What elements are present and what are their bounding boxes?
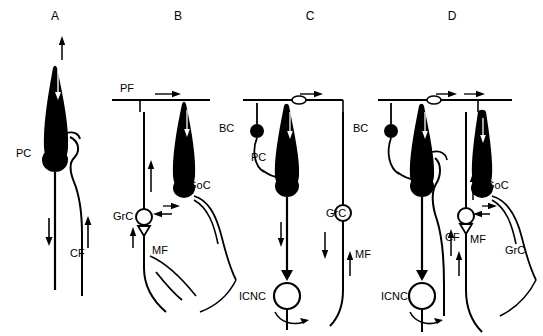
mossy-fiber-label-c: MF	[355, 248, 371, 260]
basket-cell-label-c: BC	[219, 122, 234, 134]
granule-cell-label-b: GrC	[113, 210, 133, 222]
icnc-soma	[409, 283, 435, 309]
granule-cell-label-c: GrC	[326, 207, 346, 219]
pf-synapse-ellipse	[427, 96, 441, 104]
pf-synapse-ellipse	[292, 96, 306, 104]
mossy-fiber-label-d: MF	[470, 233, 486, 245]
cerebellar-circuit-figure: A PC CF	[0, 0, 543, 336]
panel-label-c: C	[306, 9, 315, 23]
panel-label-d: D	[448, 9, 457, 23]
parallel-fiber-label-b: PF	[120, 82, 134, 94]
icnc-soma	[274, 283, 300, 309]
granule-cell-soma	[136, 209, 152, 225]
basket-cell-soma	[384, 124, 398, 138]
climbing-fiber-label-a: CF	[70, 247, 85, 259]
panel-label-b: B	[174, 9, 182, 23]
basket-cell-soma	[250, 124, 264, 138]
purkinje-soma	[275, 175, 299, 197]
basket-cell-label-d: BC	[353, 122, 368, 134]
granule-cell-soma	[458, 208, 474, 224]
purkinje-cell-label-c: PC	[251, 151, 266, 163]
purkinje-soma	[410, 175, 434, 197]
icnc-label-c: ICNC	[239, 290, 266, 302]
panel-label-a: A	[51, 9, 59, 23]
golgi-cell-label-d: GoC	[486, 179, 509, 191]
climbing-fiber-label-d: CF	[445, 231, 460, 243]
icnc-label-d: ICNC	[381, 290, 408, 302]
purkinje-soma	[42, 148, 68, 172]
purkinje-cell-label-a: PC	[16, 147, 31, 159]
golgi-cell-label-b: GoC	[188, 179, 211, 191]
granule-cell-label-d: GrC	[505, 244, 525, 256]
mossy-fiber-label-b: MF	[152, 244, 168, 256]
